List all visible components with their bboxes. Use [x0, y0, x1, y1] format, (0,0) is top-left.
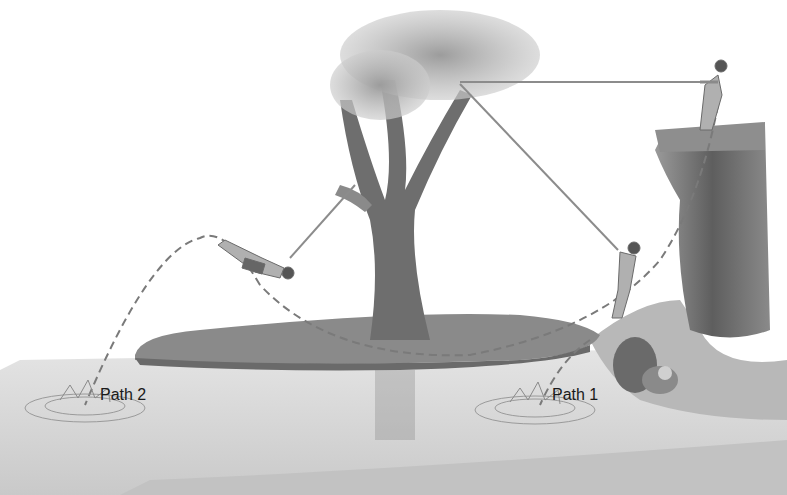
path-2-label: Path 2 [100, 386, 146, 404]
tree-reflection [375, 370, 415, 440]
boy-mid-swing [612, 242, 640, 318]
island [135, 314, 600, 370]
boy-swinging-path-2 [218, 240, 294, 279]
path-1-label: Path 1 [552, 386, 598, 404]
tree [330, 10, 540, 340]
rope-swing-illustration [0, 0, 787, 495]
boy-on-cliff [700, 60, 727, 130]
